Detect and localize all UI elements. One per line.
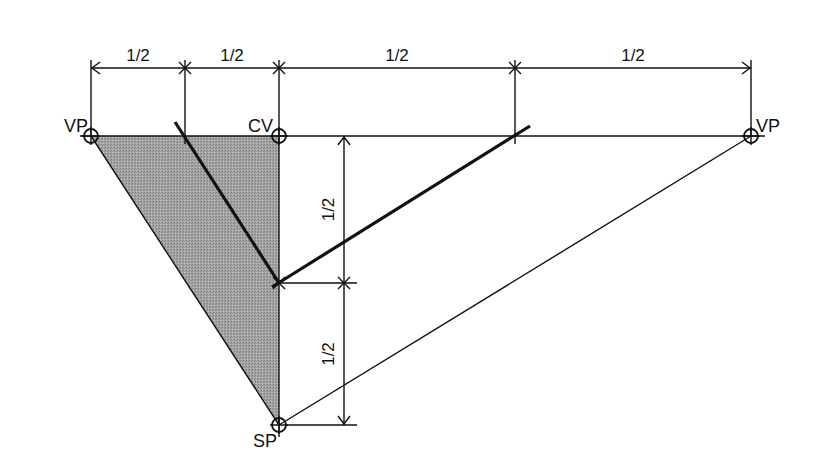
cv-label: CV — [248, 116, 273, 136]
right-vp-to-sp-line — [279, 136, 751, 425]
side-dimension-label: 1/2 — [319, 342, 338, 366]
vp-left-label: VP — [64, 116, 88, 136]
perspective-diagram: 1/21/21/21/21/21/2VPCVVPSP — [0, 0, 823, 475]
top-dimension-label: 1/2 — [385, 46, 409, 65]
top-dimension-label: 1/2 — [126, 46, 150, 65]
measuring-line-2 — [272, 126, 530, 287]
side-dimension-label: 1/2 — [319, 198, 338, 222]
top-dimension-label: 1/2 — [220, 46, 244, 65]
vp-right-label: VP — [756, 116, 780, 136]
diagram-canvas: 1/21/21/21/21/21/2VPCVVPSP — [0, 0, 823, 475]
top-dimension-label: 1/2 — [621, 46, 645, 65]
sp-label: SP — [253, 431, 277, 451]
